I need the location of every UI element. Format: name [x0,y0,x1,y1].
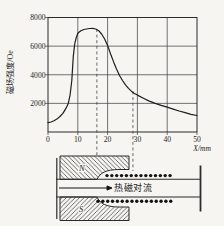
heater-dot [96,200,99,203]
heater-dot [155,200,158,203]
north-pole-piece [60,156,129,179]
heater-dot [121,200,124,203]
heater-dot [130,200,133,203]
x-tick-label: 0 [46,135,50,144]
heater-dot [145,200,148,203]
x-tick-label: 40 [163,135,171,144]
heater-dot [159,200,162,203]
field-curve [48,28,197,122]
heater-dot [144,174,147,177]
grid-lines [48,18,197,133]
heater-dot [111,200,114,203]
y-tick-label: 8000 [30,13,45,22]
magnet-schematic: N S 热磁对流 [56,156,201,221]
heater-dot [150,200,153,203]
scanned-figure-page: 010203040502000400060008000 磁场强度/Oe X/mm… [0,0,224,226]
heater-dot [125,200,128,203]
heater-dot [168,174,171,177]
field-strength-chart: 010203040502000400060008000 磁场强度/Oe X/mm [5,13,212,171]
x-axis-title: X/mm [192,144,211,153]
y-tick-label: 4000 [30,71,45,80]
heater-dots-bottom-row [96,200,172,203]
heater-dot [101,200,104,203]
heater-dot [116,200,119,203]
heater-dot [134,174,137,177]
figure-canvas: 010203040502000400060008000 磁场强度/Oe X/mm… [0,0,224,226]
x-tick-label: 30 [134,135,142,144]
heater-dots-top-row [105,174,171,177]
heater-dot [135,200,138,203]
x-tick-label: 10 [74,135,82,144]
flow-label: 热磁对流 [114,182,152,193]
heater-dot [115,174,118,177]
flow-arrow [59,186,112,190]
heater-dot [154,174,157,177]
guide-dashed-lines [97,29,133,171]
heater-dot [105,174,108,177]
heater-dot [169,200,172,203]
heater-dot [139,174,142,177]
x-tick-label: 50 [193,135,201,144]
heater-dot [130,174,133,177]
axis-ticks-and-labels: 010203040502000400060008000 [30,13,201,143]
y-axis-title: 磁场强度/Oe [5,50,15,94]
heater-dot [125,174,128,177]
heater-dot [110,174,113,177]
heater-dot [164,174,167,177]
y-tick-label: 6000 [30,42,45,51]
y-tick-label: 2000 [30,99,45,108]
heater-dot [164,200,167,203]
heater-dot [159,174,162,177]
heater-dot [120,174,123,177]
heater-dot [149,174,152,177]
heater-dot [140,200,143,203]
x-tick-label: 20 [104,135,112,144]
heater-dot [106,200,109,203]
